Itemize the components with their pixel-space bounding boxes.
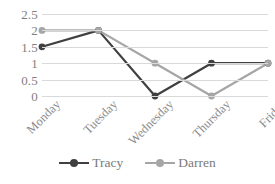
x-axis-tick-label: Wednesday	[126, 98, 175, 147]
y-axis-tick-label: 0	[0, 90, 38, 103]
gridline	[42, 14, 268, 15]
gridline	[42, 63, 268, 64]
x-axis-tick-label: Tuesday	[81, 98, 119, 136]
gridline	[42, 30, 268, 31]
gridline	[42, 80, 268, 81]
y-axis: 2.521.510.50	[0, 0, 38, 96]
legend-label: Darren	[178, 156, 215, 170]
series-lines	[42, 14, 268, 96]
y-axis-tick-label: 0.5	[0, 73, 38, 86]
x-axis-tick-label: Thursday	[190, 98, 232, 140]
line-chart: 2.521.510.50 MondayTuesdayWednesdayThurs…	[0, 0, 275, 184]
y-axis-tick-label: 1	[0, 57, 38, 70]
chart-legend: TracyDarren	[0, 156, 275, 170]
legend-label: Tracy	[92, 156, 123, 170]
y-axis-tick-label: 2	[0, 24, 38, 37]
x-axis-tick-label: Friday	[257, 98, 275, 130]
gridline	[42, 47, 268, 48]
legend-marker-icon	[145, 158, 175, 168]
y-axis-tick-label: 2.5	[0, 8, 38, 21]
plot-area	[42, 14, 268, 96]
legend-item[interactable]: Tracy	[59, 156, 123, 170]
y-axis-tick-label: 1.5	[0, 40, 38, 53]
x-axis: MondayTuesdayWednesdayThursdayFriday	[42, 96, 268, 148]
legend-marker-icon	[59, 158, 89, 168]
legend-item[interactable]: Darren	[145, 156, 215, 170]
x-axis-tick-label: Monday	[25, 98, 63, 136]
